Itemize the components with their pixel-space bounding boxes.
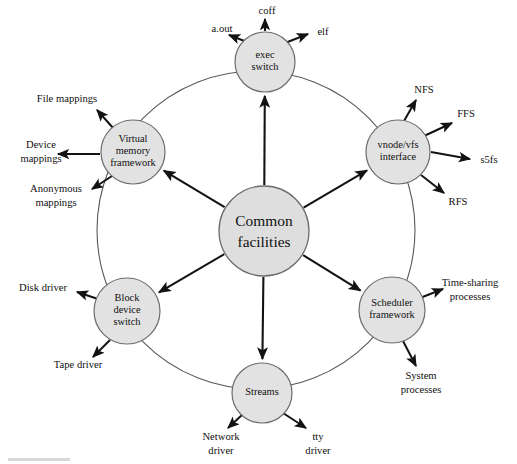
page-edge-smudge <box>8 458 70 461</box>
nfs-label: NFS <box>414 84 434 95</box>
virtual-memory-framework-label-line2: memory <box>116 145 151 156</box>
leaf-tape-driver: Tape driver <box>54 359 103 370</box>
arrow-to-tape-driver <box>93 340 110 357</box>
arrow-to-anonymous-mappings <box>92 176 112 189</box>
anonymous-mappings-label: Anonymous <box>30 183 82 194</box>
tty-driver-label: tty <box>312 431 324 442</box>
arrow-to-network-driver <box>228 414 243 428</box>
network-driver-label: Network <box>202 431 240 442</box>
leaf-nfs: NFS <box>414 84 434 95</box>
arrow-to-rfs <box>421 175 444 193</box>
s5fs-label: s5fs <box>480 154 497 165</box>
vnode-vfs-interface-label-line2: interface <box>380 151 417 162</box>
a-out-label: a.out <box>212 23 233 34</box>
architecture-diagram: execswitchvnode/vfsinterfaceSchedulerfra… <box>0 0 517 464</box>
leaf-coff: coff <box>259 5 276 16</box>
leaf-rfs: RFS <box>449 196 468 207</box>
scheduler-framework-label-line2: framework <box>369 309 415 320</box>
leaf-disk-driver: Disk driver <box>19 282 67 293</box>
leaf-tty-driver: ttydriver <box>305 431 331 456</box>
node-virtual-memory-framework[interactable]: Virtualmemoryframework <box>101 120 165 184</box>
virtual-memory-framework-label-line1: Virtual <box>119 133 148 144</box>
diagram-root: execswitchvnode/vfsinterfaceSchedulerfra… <box>0 0 517 464</box>
leaf-a-out: a.out <box>212 23 233 34</box>
block-device-switch-label-line3: switch <box>113 316 141 327</box>
time-sharing-processes-label-line2: processes <box>450 291 491 302</box>
common-facilities-label-line2: facilities <box>238 233 291 250</box>
arrow-to-ffs <box>424 123 452 136</box>
leaf-anonymous-mappings: Anonymousmappings <box>30 183 82 208</box>
leaf-network-driver: Networkdriver <box>202 431 240 456</box>
tty-driver-label-line2: driver <box>305 445 331 456</box>
common-facilities-label-line1: Common <box>235 212 293 229</box>
block-device-switch-label-line2: device <box>113 304 141 315</box>
node-streams[interactable]: Streams <box>232 363 292 423</box>
device-mappings-label: Device <box>26 139 56 150</box>
anonymous-mappings-label-line2: mappings <box>35 197 76 208</box>
arrow-to-s5fs <box>431 152 470 159</box>
common-facilities-circle[interactable] <box>219 186 309 276</box>
rfs-label: RFS <box>449 196 468 207</box>
exec-switch-label-line2: switch <box>251 61 279 72</box>
arrow-to-disk-driver <box>77 292 98 299</box>
spoke-to-streams <box>262 277 263 359</box>
arrow-to-file-mappings <box>97 110 114 129</box>
ffs-label: FFS <box>457 108 475 119</box>
leaf-elf: elf <box>317 26 329 37</box>
leaf-s5fs: s5fs <box>480 154 497 165</box>
node-exec-switch[interactable]: execswitch <box>235 32 295 92</box>
vnode-vfs-interface-label-line1: vnode/vfs <box>378 139 419 150</box>
spoke-to-scheduler-framework <box>303 255 360 290</box>
disk-driver-label: Disk driver <box>19 282 67 293</box>
node-block-device-switch[interactable]: Blockdeviceswitch <box>94 278 160 344</box>
spoke-to-block-device-switch <box>159 254 224 292</box>
leaf-device-mappings: Devicemappings <box>20 139 61 164</box>
node-vnode-vfs-interface[interactable]: vnode/vfsinterface <box>366 120 430 184</box>
node-scheduler-framework[interactable]: Schedulerframework <box>359 277 425 343</box>
spoke-to-exec-switch <box>264 96 265 185</box>
common-facilities-node[interactable]: Common facilities <box>219 186 309 276</box>
arrow-to-time-sharing-processes <box>420 289 443 298</box>
time-sharing-processes-label: Time-sharing <box>442 277 499 288</box>
leaf-time-sharing-processes: Time-sharingprocesses <box>442 277 499 302</box>
block-device-switch-label-line1: Block <box>115 292 141 303</box>
streams-label-line1: Streams <box>245 386 278 397</box>
leaf-system-processes: Systemprocesses <box>401 370 442 395</box>
file-mappings-label: File mappings <box>37 93 97 104</box>
leaf-ffs: FFS <box>457 108 475 119</box>
arrow-to-elf <box>285 34 308 43</box>
elf-label: elf <box>317 26 329 37</box>
spoke-to-vnode-vfs-interface <box>304 170 367 207</box>
spoke-to-virtual-memory-framework <box>164 171 225 208</box>
system-processes-label-line2: processes <box>401 384 442 395</box>
exec-switch-label-line1: exec <box>255 49 274 60</box>
virtual-memory-framework-label-line3: framework <box>110 157 156 168</box>
arrow-to-nfs <box>404 100 416 121</box>
scheduler-framework-label-line1: Scheduler <box>371 297 413 308</box>
coff-label: coff <box>259 5 276 16</box>
network-driver-label-line2: driver <box>208 445 234 456</box>
device-mappings-label-line2: mappings <box>20 153 61 164</box>
tape-driver-label: Tape driver <box>54 359 103 370</box>
system-processes-label: System <box>405 370 437 381</box>
leaf-file-mappings: File mappings <box>37 93 97 104</box>
arrow-to-tty-driver <box>283 413 306 428</box>
arrow-to-system-processes <box>403 341 416 366</box>
